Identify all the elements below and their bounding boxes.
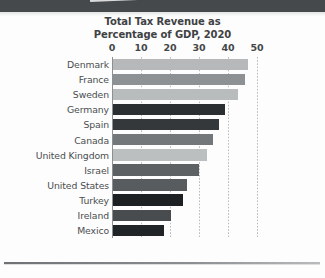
bar-spain <box>113 119 219 130</box>
bar-united-kingdom <box>113 149 207 160</box>
bar-chart: Total Tax Revenue as Percentage of GDP, … <box>0 14 325 260</box>
chart-title: Total Tax Revenue as Percentage of GDP, … <box>0 16 325 41</box>
bar-row: Mexico <box>0 223 325 238</box>
x-tick-label-20: 20 <box>163 42 176 53</box>
top-banner <box>0 0 325 12</box>
bar-row: Canada <box>0 133 325 148</box>
bar-sweden <box>113 89 238 100</box>
bar-category-label: United States <box>47 178 109 193</box>
bar-category-label: Turkey <box>79 193 109 208</box>
chart-title-line2: Percentage of GDP, 2020 <box>0 29 325 42</box>
bar-category-label: Spain <box>84 117 109 132</box>
bar-category-label: Germany <box>67 102 109 117</box>
bar-mexico <box>113 225 164 236</box>
bar-united-states <box>113 179 187 190</box>
bar-row: United States <box>0 178 325 193</box>
x-tick-label-50: 50 <box>250 42 263 53</box>
bar-row: Ireland <box>0 208 325 223</box>
bar-rows: DenmarkFranceSwedenGermanySpainCanadaUni… <box>0 57 325 238</box>
bar-ireland <box>113 210 171 221</box>
bar-row: Israel <box>0 163 325 178</box>
bar-category-label: United Kingdom <box>36 148 109 163</box>
x-tick-label-30: 30 <box>192 42 205 53</box>
bar-row: Sweden <box>0 87 325 102</box>
bar-france <box>113 74 245 85</box>
bar-germany <box>113 104 225 115</box>
bar-row: Turkey <box>0 193 325 208</box>
x-tick-label-40: 40 <box>221 42 234 53</box>
x-tick-label-10: 10 <box>134 42 147 53</box>
bar-israel <box>113 164 199 175</box>
bar-denmark <box>113 59 248 70</box>
bar-category-label: France <box>79 72 109 87</box>
chart-page: Total Tax Revenue as Percentage of GDP, … <box>0 0 325 278</box>
bar-category-label: Canada <box>74 133 109 148</box>
bar-row: France <box>0 72 325 87</box>
bar-category-label: Israel <box>84 163 109 178</box>
plot-area: 01020304050 DenmarkFranceSwedenGermanySp… <box>0 42 325 252</box>
bar-category-label: Sweden <box>73 87 109 102</box>
bar-category-label: Mexico <box>77 223 109 238</box>
bar-row: Germany <box>0 102 325 117</box>
x-axis-tick-labels: 01020304050 <box>0 42 325 56</box>
bar-canada <box>113 134 213 145</box>
bar-row: Denmark <box>0 57 325 72</box>
bar-row: Spain <box>0 117 325 132</box>
banner-diagonal-streak <box>90 0 290 2</box>
chart-title-line1: Total Tax Revenue as <box>105 16 221 27</box>
bar-category-label: Denmark <box>67 57 109 72</box>
bar-row: United Kingdom <box>0 148 325 163</box>
bar-turkey <box>113 194 183 205</box>
x-tick-label-0: 0 <box>109 42 116 53</box>
bar-category-label: Ireland <box>78 208 109 223</box>
bottom-divider-soft <box>4 264 320 265</box>
